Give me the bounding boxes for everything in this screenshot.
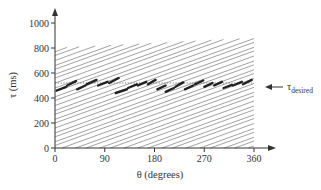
diagonal-line xyxy=(55,47,67,51)
y-tick-label: 200 xyxy=(34,118,49,129)
diagonal-line xyxy=(162,115,254,148)
y-tick-label: 1000 xyxy=(29,18,49,29)
diagonal-line xyxy=(100,92,254,148)
trajectory-segment xyxy=(233,82,242,86)
x-tick-label: 0 xyxy=(53,153,58,164)
diagonal-line xyxy=(55,45,111,65)
y-tick-label: 600 xyxy=(34,68,49,79)
diagonal-line xyxy=(55,44,139,75)
diagonal-line xyxy=(55,40,224,101)
x-tick-label: 270 xyxy=(197,153,212,164)
x-tick-label: 90 xyxy=(100,153,110,164)
tau-desired-annotation: τdesired xyxy=(265,81,313,95)
diagonal-line xyxy=(138,106,254,148)
trajectory-segment xyxy=(224,85,232,88)
x-tick-label: 180 xyxy=(147,153,162,164)
y-axis-arrow-icon xyxy=(52,8,58,16)
trajectory-segment xyxy=(98,82,107,86)
x-axis-title: θ (degrees) xyxy=(137,169,184,181)
background-diagonal-lines xyxy=(55,39,254,149)
x-axis-arrow-icon xyxy=(268,145,276,151)
trajectory-segment xyxy=(128,84,137,88)
arrowhead-icon xyxy=(265,84,272,90)
y-tick-label: 800 xyxy=(34,43,49,54)
diagonal-line xyxy=(86,87,254,148)
diagonal-line xyxy=(55,39,240,106)
chart: 09018027036002004006008001000 θ (degrees… xyxy=(0,0,321,190)
trajectory-segment xyxy=(214,82,222,86)
diagonal-line xyxy=(55,47,79,56)
annotation-subscript: desired xyxy=(291,86,313,95)
trajectory-segment xyxy=(116,89,127,93)
y-axis-title: τ (ms) xyxy=(7,71,19,98)
y-tick-label: 400 xyxy=(34,93,49,104)
diagonal-line xyxy=(211,132,255,148)
x-tick-label: 360 xyxy=(247,153,262,164)
trajectory-segment xyxy=(138,82,146,86)
diagonal-line xyxy=(55,42,167,83)
svg-text:τdesired: τdesired xyxy=(287,81,313,95)
trajectory-segment xyxy=(77,86,85,90)
diagonal-line xyxy=(124,101,254,148)
y-tick-label: 0 xyxy=(44,143,49,154)
